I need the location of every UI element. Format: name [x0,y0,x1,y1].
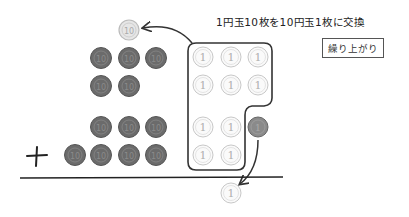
carry-badge: 繰り上がり [322,38,384,58]
bottom-ten-yen-coins [65,117,167,166]
remaining-one-yen-coin: 1 [248,117,268,137]
svg-text:1: 1 [255,122,261,133]
carry-arrow [143,27,192,43]
top-ten-yen-coins [91,48,167,97]
carry-diagram: 10 10 1 [0,0,409,217]
carried-ten-yen-coin [119,20,139,40]
result-one-yen-coin [221,183,241,203]
plus-sign [27,147,47,166]
sum-line [20,177,283,178]
exchange-caption: 1円玉10枚を10円玉1枚に交換 [216,14,364,29]
